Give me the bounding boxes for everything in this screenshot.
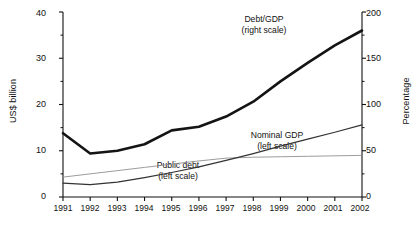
axis-lines [59, 12, 366, 201]
series-lines [63, 31, 362, 185]
series-line-public-debt [63, 125, 362, 185]
series-line-debt-gdp [63, 31, 362, 154]
chart-plot-area [0, 0, 412, 237]
chart-figure: US$ billion Percentage 40 30 20 10 0 200… [0, 0, 412, 237]
series-line-nominal-gdp [63, 155, 362, 177]
